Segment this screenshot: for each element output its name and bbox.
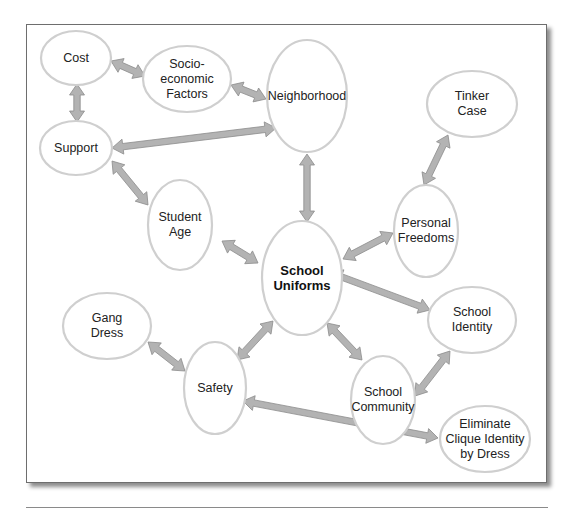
double-arrow-gang_dress-safety bbox=[148, 342, 185, 371]
double-arrow-school_uniforms-school_community bbox=[327, 323, 362, 360]
node-school-community bbox=[351, 356, 415, 444]
double-arrow-cost-socio bbox=[111, 59, 145, 79]
node-tinker bbox=[427, 71, 517, 137]
bottom-rule bbox=[26, 507, 548, 508]
double-arrow-cost-support bbox=[70, 84, 85, 122]
double-arrow-personal_freedoms-school_uniforms bbox=[343, 231, 393, 260]
double-arrow-support-student_age bbox=[112, 161, 148, 205]
node-eliminate-clique bbox=[440, 406, 530, 472]
node-neighborhood bbox=[267, 40, 347, 152]
double-arrow-school_uniforms-school_identity bbox=[331, 270, 430, 313]
node-gang-dress bbox=[63, 293, 151, 359]
concept-map bbox=[0, 0, 568, 510]
node-cost bbox=[41, 31, 111, 85]
double-arrow-student_age-school_uniforms bbox=[222, 240, 258, 263]
node-socio bbox=[143, 46, 231, 112]
node-student-age bbox=[148, 180, 212, 270]
node-school-uniforms bbox=[262, 221, 342, 335]
double-arrow-school_uniforms-safety bbox=[237, 321, 273, 360]
double-arrow-school_identity-school_community bbox=[415, 351, 450, 396]
node-support bbox=[40, 121, 112, 175]
double-arrow-socio-neighborhood bbox=[231, 82, 266, 102]
double-arrow-neighborhood-school_uniforms bbox=[300, 154, 315, 222]
node-school-identity bbox=[428, 287, 516, 353]
node-personal-freedoms bbox=[394, 185, 458, 277]
node-safety bbox=[184, 342, 246, 434]
double-arrow-support-neighborhood bbox=[112, 122, 276, 154]
double-arrow-tinker-personal_freedoms bbox=[422, 135, 450, 185]
